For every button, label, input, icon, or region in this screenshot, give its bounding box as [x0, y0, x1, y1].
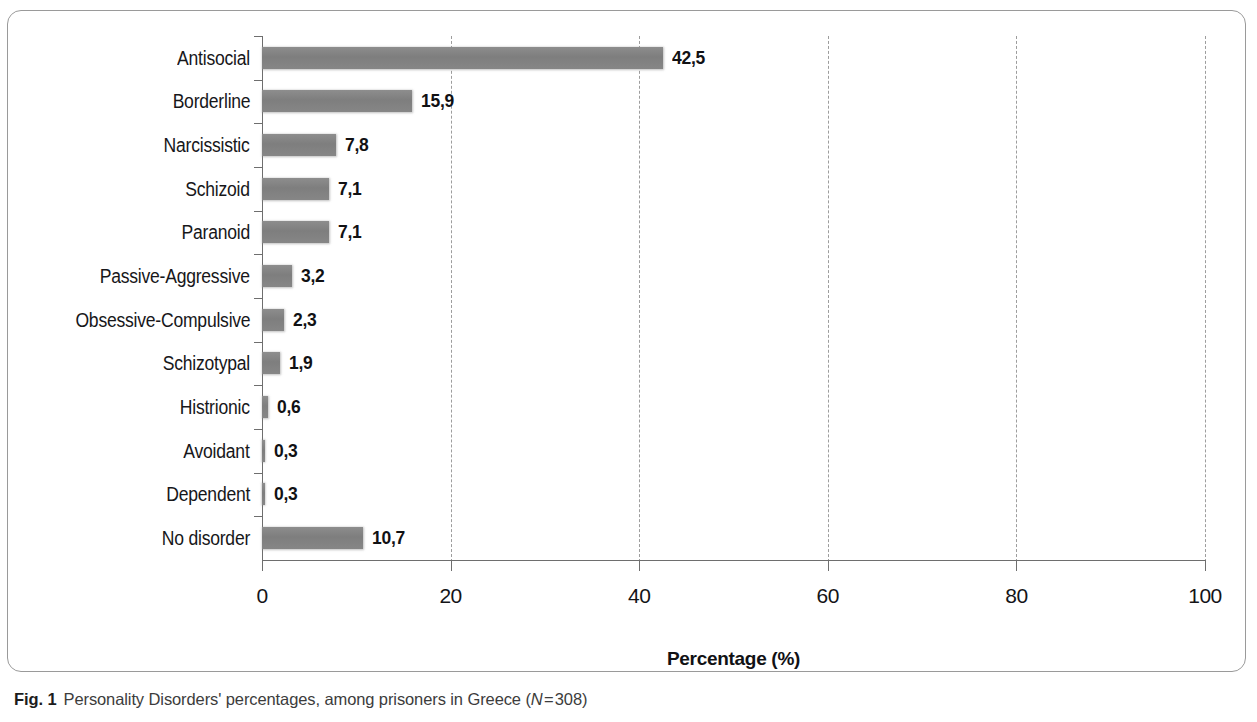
bar[interactable]	[262, 309, 284, 331]
bar[interactable]	[262, 134, 336, 156]
category-label-text: Passive-Aggressive	[100, 265, 250, 288]
y-axis-tick	[254, 36, 262, 37]
bar[interactable]	[262, 265, 292, 287]
bar-and-value: 7,8	[262, 134, 370, 156]
category-label: Borderline	[0, 90, 250, 113]
figure-page: Antisocial42,5Borderline15,9Narcissistic…	[0, 0, 1257, 722]
bar-and-value: 1,9	[262, 352, 314, 374]
x-axis-title: Percentage (%)	[262, 648, 1205, 670]
x-tick-label: 0	[232, 584, 292, 608]
x-axis-tick-20	[451, 560, 452, 571]
category-label-text: Dependent	[166, 483, 250, 506]
bar-row: Dependent0,3	[262, 473, 1205, 517]
y-axis-tick	[254, 254, 262, 255]
x-axis-tick-0	[262, 560, 263, 571]
x-tick-label: 80	[986, 584, 1046, 608]
bar-and-value: 10,7	[262, 527, 408, 549]
bar-and-value: 2,3	[262, 309, 318, 331]
gridline-100	[1205, 36, 1206, 562]
bar-value-label: 3,2	[301, 265, 324, 287]
bar[interactable]	[262, 440, 265, 462]
bar[interactable]	[262, 47, 663, 69]
bar-row: Obsessive-Compulsive2,3	[262, 298, 1205, 342]
bar-and-value: 7,1	[262, 178, 363, 200]
x-tick-label: 40	[609, 584, 669, 608]
category-label-text: Antisocial	[177, 46, 250, 69]
bar[interactable]	[262, 483, 265, 505]
category-label: Obsessive-Compulsive	[0, 308, 250, 331]
category-label-text: Schizotypal	[163, 352, 250, 375]
bar-and-value: 42,5	[262, 47, 708, 69]
y-axis-tick	[254, 167, 262, 168]
category-label: Paranoid	[0, 221, 250, 244]
category-label: Dependent	[0, 483, 250, 506]
y-axis-tick	[254, 123, 262, 124]
category-label: Avoidant	[0, 439, 250, 462]
category-label: Schizotypal	[0, 352, 250, 375]
bar-value-label: 0,3	[274, 483, 297, 505]
category-label-text: No disorder	[162, 527, 250, 550]
category-label-text: Avoidant	[184, 439, 250, 462]
bar-and-value: 0,3	[262, 483, 300, 505]
bar-value-label: 0,6	[277, 396, 300, 418]
caption-text-b: = 308)	[543, 690, 588, 708]
bar-value-label: 10,7	[372, 527, 405, 549]
category-label: Histrionic	[0, 396, 250, 419]
category-label: Schizoid	[0, 177, 250, 200]
figure-number: Fig. 1	[14, 690, 57, 708]
bar[interactable]	[262, 178, 329, 200]
y-axis-tick	[254, 473, 262, 474]
x-axis-line	[262, 560, 1206, 561]
y-axis-tick	[254, 80, 262, 81]
y-axis-tick	[254, 211, 262, 212]
bar-value-label: 42,5	[672, 47, 705, 69]
bar-value-label: 7,1	[338, 221, 361, 243]
y-axis-tick	[254, 385, 262, 386]
bar-row: Narcissistic7,8	[262, 123, 1205, 167]
category-label-text: Histrionic	[180, 396, 250, 419]
bar-value-label: 15,9	[421, 90, 454, 112]
caption-n-symbol: N	[531, 690, 543, 708]
bar-and-value: 0,3	[262, 440, 300, 462]
category-label-text: Paranoid	[182, 221, 250, 244]
bar-row: Borderline15,9	[262, 80, 1205, 124]
bar-row: Schizoid7,1	[262, 167, 1205, 211]
bar-row: Passive-Aggressive3,2	[262, 254, 1205, 298]
bar[interactable]	[262, 90, 412, 112]
bar-row: Antisocial42,5	[262, 36, 1205, 80]
bar-and-value: 3,2	[262, 265, 327, 287]
caption-text-a: Personality Disorders' percentages, amon…	[64, 690, 531, 708]
bar-row: Histrionic0,6	[262, 385, 1205, 429]
bar-value-label: 7,1	[338, 178, 361, 200]
y-axis-tick	[254, 342, 262, 343]
x-axis-tick-40	[639, 560, 640, 571]
bar-and-value: 0,6	[262, 396, 302, 418]
bar-row: Schizotypal1,9	[262, 342, 1205, 386]
x-axis-tick-80	[1016, 560, 1017, 571]
bar-row: Paranoid7,1	[262, 211, 1205, 255]
bar-and-value: 15,9	[262, 90, 457, 112]
bar-value-label: 1,9	[289, 352, 312, 374]
figure-caption: Fig. 1Personality Disorders' percentages…	[14, 690, 587, 709]
bar[interactable]	[262, 396, 268, 418]
figure-frame: Antisocial42,5Borderline15,9Narcissistic…	[7, 10, 1246, 672]
bar-value-label: 2,3	[293, 309, 316, 331]
bar-row: Avoidant0,3	[262, 429, 1205, 473]
plot-area: Antisocial42,5Borderline15,9Narcissistic…	[262, 36, 1205, 560]
x-tick-label: 20	[421, 584, 481, 608]
bar[interactable]	[262, 352, 280, 374]
bar[interactable]	[262, 221, 329, 243]
category-label-text: Obsessive-Compulsive	[75, 308, 250, 331]
category-label: No disorder	[0, 527, 250, 550]
category-label-text: Borderline	[172, 90, 250, 113]
bar[interactable]	[262, 527, 363, 549]
category-label: Narcissistic	[0, 134, 250, 157]
bar-value-label: 7,8	[345, 134, 368, 156]
category-label: Passive-Aggressive	[0, 265, 250, 288]
category-label-text: Schizoid	[185, 177, 250, 200]
y-axis-tick	[254, 429, 262, 430]
x-axis-tick-100	[1205, 560, 1206, 571]
x-axis-tick-60	[828, 560, 829, 571]
y-axis-tick	[254, 298, 262, 299]
bar-row: No disorder10,7	[262, 516, 1205, 560]
